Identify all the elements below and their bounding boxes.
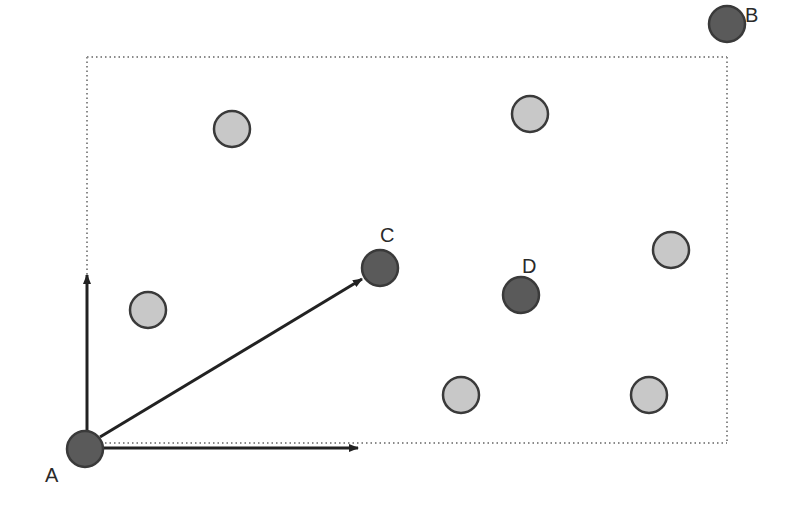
point-label: A [45,464,59,486]
point-a: A [45,431,103,486]
unlabeled-point [214,111,250,147]
point-c: C [362,224,398,286]
unlabeled-point [443,377,479,413]
point-label: B [745,4,758,26]
arrows [87,275,362,448]
unlabeled-point [631,377,667,413]
point-label: C [380,224,394,246]
unlabeled-points [130,96,689,413]
point-b: B [709,4,758,42]
point-marker [709,6,745,42]
point-marker [67,431,103,467]
point-label: D [522,255,536,277]
point-marker [503,277,539,313]
dotted-bounding-box [87,57,727,443]
unlabeled-point [130,292,166,328]
vector-diagram: ABCD [0,0,800,505]
point-marker [362,250,398,286]
point-d: D [503,255,539,313]
unlabeled-point [512,96,548,132]
unlabeled-point [653,232,689,268]
